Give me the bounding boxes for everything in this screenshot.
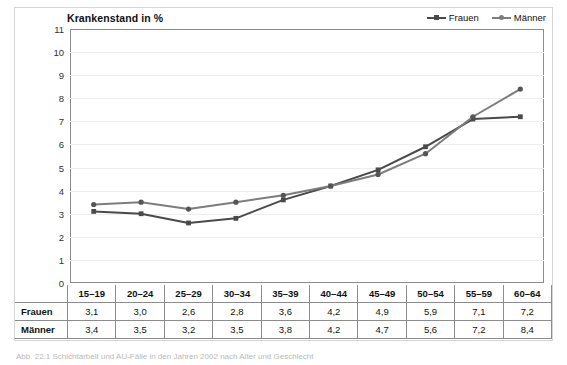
- data-point-frauen-1: [139, 211, 144, 216]
- table-cell-0-4: 3,6: [261, 303, 309, 321]
- table-cell-1-5: 4,2: [310, 321, 358, 339]
- y-axis-tick-label: 9: [59, 70, 64, 81]
- table-row: Männer3,43,53,23,53,84,24,75,67,28,4: [15, 321, 552, 339]
- data-point-frauen-3: [234, 216, 239, 221]
- y-axis-tick-label: 6: [59, 139, 64, 150]
- y-axis-tick-label: 10: [53, 47, 64, 58]
- figure-caption: Abb. 22.1 Schichtarbeit und AU-Fälle in …: [16, 352, 561, 363]
- series-line-frauen: [94, 117, 521, 223]
- table-cell-0-1: 3,0: [116, 303, 164, 321]
- chart-area: Krankenstand in % Frauen Männer 11109876…: [15, 8, 552, 286]
- table-column-header-6: 45–49: [358, 285, 406, 303]
- table-cell-0-0: 3,1: [68, 303, 116, 321]
- data-point-männer-0: [91, 202, 96, 207]
- table-corner-cell: [15, 285, 68, 303]
- table-cell-0-7: 5,9: [406, 303, 454, 321]
- table-cell-0-8: 7,1: [455, 303, 503, 321]
- table-cell-1-9: 8,4: [503, 321, 551, 339]
- figure-container: Krankenstand in % Frauen Männer 11109876…: [14, 7, 553, 341]
- data-point-frauen-0: [91, 209, 96, 214]
- table-cell-1-1: 3,5: [116, 321, 164, 339]
- data-point-männer-1: [139, 200, 144, 205]
- table-cell-0-5: 4,2: [310, 303, 358, 321]
- chart-legend: Frauen Männer: [427, 12, 546, 23]
- y-axis-tick-label: 8: [59, 93, 64, 104]
- data-point-frauen-4: [281, 197, 286, 202]
- legend-marker-circle-icon: [492, 14, 511, 22]
- table-cell-1-8: 7,2: [455, 321, 503, 339]
- plot-area: 11109876543210: [70, 29, 544, 283]
- data-point-frauen-9: [518, 114, 523, 119]
- legend-label-maenner: Männer: [514, 12, 546, 23]
- table-cell-1-2: 3,2: [164, 321, 212, 339]
- data-table: 15–1920–2425–2930–3435–3940–4445–4950–54…: [15, 285, 552, 339]
- table-column-header-9: 60–64: [503, 285, 551, 303]
- table-row: Frauen3,13,02,62,83,64,24,95,97,17,2: [15, 303, 552, 321]
- table-cell-1-7: 5,6: [406, 321, 454, 339]
- data-point-männer-6: [376, 172, 381, 177]
- data-table-wrap: 15–1920–2425–2930–3435–3940–4445–4950–54…: [15, 285, 552, 339]
- legend-item-maenner: Männer: [492, 12, 546, 23]
- data-point-männer-4: [281, 193, 286, 198]
- series-line-männer: [94, 89, 521, 209]
- y-axis-tick-label: 11: [54, 24, 64, 35]
- table-column-header-1: 20–24: [116, 285, 164, 303]
- y-axis-tick-label: 2: [59, 231, 64, 242]
- chart-title: Krankenstand in %: [67, 12, 163, 24]
- legend-label-frauen: Frauen: [449, 12, 479, 23]
- plot-series-svg: [70, 29, 544, 283]
- table-column-header-8: 55–59: [455, 285, 503, 303]
- y-axis-tick-label: 1: [59, 254, 64, 265]
- data-point-männer-2: [186, 207, 191, 212]
- y-axis-tick-label: 7: [59, 116, 64, 127]
- data-point-männer-3: [233, 200, 238, 205]
- table-cell-1-6: 4,7: [358, 321, 406, 339]
- legend-marker-square-icon: [427, 14, 446, 22]
- table-row-label-0: Frauen: [15, 303, 68, 321]
- table-cell-1-0: 3,4: [68, 321, 116, 339]
- table-column-header-0: 15–19: [68, 285, 116, 303]
- y-axis-tick-label: 4: [59, 185, 64, 196]
- table-column-header-2: 25–29: [164, 285, 212, 303]
- table-row-label-1: Männer: [15, 321, 68, 339]
- table-column-header-7: 50–54: [406, 285, 454, 303]
- table-cell-1-4: 3,8: [261, 321, 309, 339]
- table-cell-0-3: 2,8: [213, 303, 261, 321]
- data-point-frauen-7: [423, 144, 428, 149]
- y-axis-tick-label: 5: [59, 162, 64, 173]
- table-cell-0-9: 7,2: [503, 303, 551, 321]
- data-point-frauen-6: [376, 167, 381, 172]
- table-column-header-4: 35–39: [261, 285, 309, 303]
- table-cell-1-3: 3,5: [213, 321, 261, 339]
- data-point-frauen-2: [186, 221, 191, 226]
- table-header-row: 15–1920–2425–2930–3435–3940–4445–4950–54…: [15, 285, 552, 303]
- y-axis-tick-label: 3: [59, 208, 64, 219]
- table-cell-0-2: 2,6: [164, 303, 212, 321]
- data-point-männer-7: [423, 151, 428, 156]
- data-point-männer-5: [328, 183, 333, 188]
- table-cell-0-6: 4,9: [358, 303, 406, 321]
- table-column-header-3: 30–34: [213, 285, 261, 303]
- data-point-männer-9: [518, 86, 523, 91]
- data-point-männer-8: [470, 114, 475, 119]
- legend-item-frauen: Frauen: [427, 12, 479, 23]
- table-column-header-5: 40–44: [310, 285, 358, 303]
